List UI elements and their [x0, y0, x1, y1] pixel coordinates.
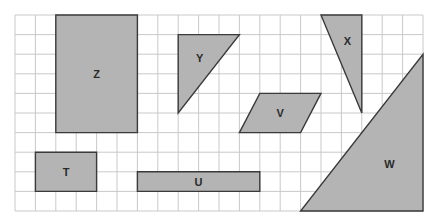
shape-label-u: U [195, 176, 203, 188]
shape-u: U [137, 172, 259, 192]
shape-label-t: T [63, 166, 70, 178]
shape-v: V [239, 93, 321, 132]
shape-z: Z [56, 15, 138, 133]
shape-label-x: X [344, 35, 352, 47]
shape-label-w: W [384, 158, 395, 170]
shape-label-y: Y [196, 52, 204, 64]
shape-label-z: Z [93, 68, 100, 80]
shape-grid-diagram: ZYXVTUW [0, 0, 439, 223]
shape-label-v: V [277, 107, 285, 119]
shape-t: T [35, 152, 96, 191]
